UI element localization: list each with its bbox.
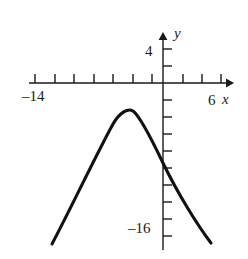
x-axis-max-tick-label: 6 (208, 93, 216, 108)
x-axis-arrow-icon (226, 79, 234, 88)
coordinate-plane (0, 0, 248, 259)
x-axis-ticks (35, 74, 221, 83)
y-axis-max-tick-label: 4 (145, 44, 153, 59)
y-axis-ticks (163, 49, 172, 236)
y-axis-variable-label: y (174, 26, 181, 41)
graph-figure: –14 6 x 4 –16 y (0, 0, 248, 259)
x-axis-min-tick-label: –14 (22, 89, 45, 104)
x-axis-variable-label: x (222, 92, 229, 107)
y-axis-min-tick-label: –16 (128, 221, 151, 236)
y-axis-arrow-icon (159, 32, 168, 40)
